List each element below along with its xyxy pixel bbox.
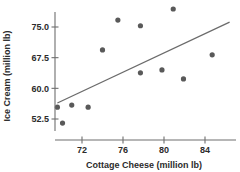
data-point bbox=[159, 67, 164, 72]
x-tick-label: 72 bbox=[77, 145, 87, 155]
x-tick-label: 84 bbox=[200, 145, 210, 155]
data-point bbox=[171, 6, 176, 11]
plot-area bbox=[55, 6, 230, 125]
data-point bbox=[138, 23, 143, 28]
data-point bbox=[100, 47, 105, 52]
data-point bbox=[138, 70, 143, 75]
trend-line-group bbox=[57, 22, 229, 103]
scatter-chart: 52.560.067.575.0 72768084 Cottage Cheese… bbox=[0, 0, 240, 172]
x-tick-label: 80 bbox=[159, 145, 169, 155]
y-tick-label: 60.0 bbox=[31, 84, 49, 94]
y-tick-label: 67.5 bbox=[31, 53, 49, 63]
data-point bbox=[55, 105, 60, 110]
data-point bbox=[86, 105, 91, 110]
data-point bbox=[115, 17, 120, 22]
x-axis-title: Cottage Cheese (million lb) bbox=[86, 160, 202, 170]
y-tick-label: 75.0 bbox=[31, 22, 49, 32]
y-axis: 52.560.067.575.0 bbox=[31, 12, 58, 131]
data-point bbox=[210, 52, 215, 57]
y-axis-title: Ice Cream (million lb) bbox=[2, 30, 12, 121]
chart-svg: 52.560.067.575.0 72768084 Cottage Cheese… bbox=[0, 0, 240, 172]
data-point bbox=[181, 76, 186, 81]
data-point bbox=[69, 102, 74, 107]
trend-line bbox=[57, 22, 229, 103]
x-axis: 72768084 bbox=[55, 137, 236, 156]
y-tick-label: 52.5 bbox=[31, 114, 49, 124]
x-tick-label: 76 bbox=[118, 145, 128, 155]
data-point bbox=[60, 120, 65, 125]
